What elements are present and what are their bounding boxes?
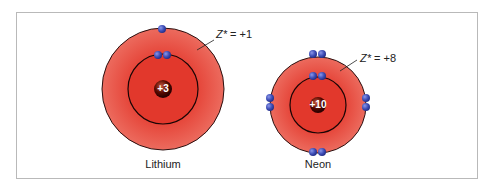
electron [309, 148, 317, 156]
lithium-label: Lithium [137, 158, 189, 170]
electron [318, 148, 326, 156]
z-value: = +1 [230, 28, 252, 40]
electron [266, 94, 274, 102]
neon-label: Neon [298, 158, 338, 170]
lithium-nucleus-charge: +3 [154, 83, 172, 94]
electron [163, 51, 171, 59]
electron [318, 50, 326, 58]
electron [309, 72, 317, 80]
z-value: = +8 [374, 52, 396, 64]
z-symbol: Z* [360, 52, 371, 64]
electron [309, 50, 317, 58]
electron [362, 94, 370, 102]
neon-nucleus-charge: +10 [306, 99, 330, 110]
electron [318, 72, 326, 80]
neon-zeff-label: Z* = +8 [360, 52, 396, 64]
electron [158, 25, 166, 33]
electron [154, 51, 162, 59]
electron [362, 103, 370, 111]
z-symbol: Z* [216, 28, 227, 40]
lithium-zeff-label: Z* = +1 [216, 28, 252, 40]
electron [266, 103, 274, 111]
